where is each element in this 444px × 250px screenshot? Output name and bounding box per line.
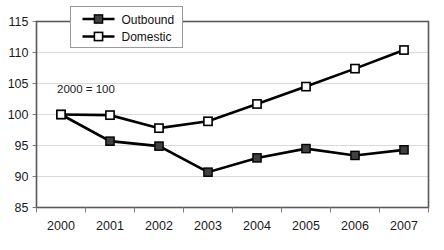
x-axis-tick-label: 2001	[96, 219, 124, 233]
y-axis-tick-label: 100	[8, 108, 29, 122]
y-axis-tick-label: 105	[8, 77, 29, 91]
line-chart: 8590951001051101152000200120022003200420…	[0, 0, 444, 250]
data-point	[204, 117, 212, 125]
series-outbound	[57, 110, 408, 176]
data-point	[351, 65, 359, 73]
legend-item-label: Outbound	[122, 13, 175, 27]
x-axis-tick-label: 2006	[341, 219, 369, 233]
data-point	[302, 83, 310, 91]
data-point	[253, 100, 261, 108]
legend-marker-sample	[94, 15, 102, 23]
x-axis-tick-label: 2007	[390, 219, 418, 233]
x-axis-tick-label: 2000	[47, 219, 75, 233]
y-axis-tick-label: 115	[9, 15, 29, 29]
y-axis-tick-label: 90	[15, 170, 29, 184]
legend-item-label: Domestic	[122, 30, 172, 44]
data-point	[400, 46, 408, 54]
x-axis-tick-label: 2005	[292, 219, 320, 233]
x-axis: 20002001200220032004200520062007	[37, 208, 429, 233]
legend[interactable]: OutboundDomestic	[71, 7, 183, 48]
data-point	[253, 154, 261, 162]
data-point	[204, 168, 212, 176]
data-point	[351, 151, 359, 159]
data-point	[57, 110, 65, 118]
y-axis-tick-label: 85	[15, 201, 29, 215]
data-point	[106, 111, 114, 119]
y-axis: 859095100105110115	[8, 15, 37, 215]
data-point	[155, 142, 163, 150]
x-axis-tick-label: 2003	[194, 219, 222, 233]
x-axis-tick-label: 2004	[243, 219, 271, 233]
chart-canvas: 8590951001051101152000200120022003200420…	[0, 0, 444, 250]
data-point	[106, 137, 114, 145]
annotations: 2000 = 100	[57, 83, 115, 95]
x-axis-tick-label: 2002	[145, 219, 173, 233]
data-point	[155, 124, 163, 132]
data-point	[400, 146, 408, 154]
y-axis-tick-label: 95	[15, 139, 29, 153]
data-point	[302, 145, 310, 153]
chart-annotation: 2000 = 100	[57, 83, 115, 95]
legend-marker-sample	[94, 32, 102, 40]
y-axis-tick-label: 110	[9, 46, 29, 60]
